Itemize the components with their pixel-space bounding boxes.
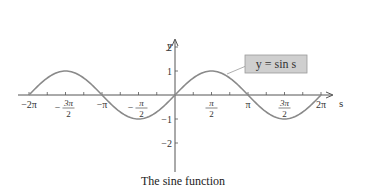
svg-text:2π: 2π [316, 99, 326, 110]
svg-text:−: − [128, 102, 134, 113]
svg-text:2: 2 [282, 109, 287, 119]
chart-caption: The sine function [0, 174, 366, 189]
svg-text:2: 2 [209, 109, 214, 119]
svg-text:−2: −2 [161, 138, 172, 149]
curve-label: y = sin s [245, 55, 307, 73]
svg-text:2: 2 [66, 109, 71, 119]
curve-label-text: y = sin s [256, 57, 297, 71]
svg-text:3π: 3π [63, 98, 74, 108]
x-axis-label: s [339, 97, 343, 109]
svg-text:−1: −1 [161, 114, 172, 125]
label-leader-line [227, 66, 246, 74]
x-ticks: −2π−3π2−π−π2π2π3π22π [21, 98, 326, 119]
svg-text:3π: 3π [279, 98, 290, 108]
y-axis-label: y [166, 39, 172, 51]
svg-text:π: π [139, 98, 144, 108]
svg-text:π: π [209, 98, 214, 108]
svg-text:−π: −π [97, 99, 108, 110]
svg-text:−2π: −2π [21, 99, 37, 110]
svg-text:2: 2 [139, 109, 144, 119]
sine-chart: −2π−3π2−π−π2π2π3π22π 21−1−2 y = sin s y … [0, 0, 366, 191]
svg-text:1: 1 [167, 66, 172, 77]
svg-text:π: π [245, 99, 250, 110]
svg-text:−: − [55, 102, 61, 113]
